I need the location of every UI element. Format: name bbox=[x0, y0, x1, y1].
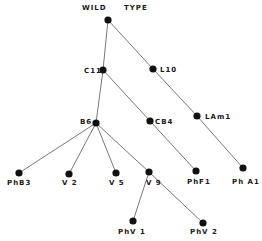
label-wild: WILD bbox=[82, 4, 107, 12]
node-v2 bbox=[65, 170, 72, 177]
edge-b6-phb3 bbox=[19, 123, 96, 173]
label-v5: V 5 bbox=[109, 179, 125, 187]
lineage-tree-diagram: WILD TYPE C11 L10 B6 CB4 LAm1 PhB3 V 2 V… bbox=[0, 0, 262, 241]
edge-lam1-pha1 bbox=[197, 116, 243, 168]
label-cb4: CB4 bbox=[155, 118, 173, 126]
edge-l10-lam1 bbox=[153, 69, 197, 116]
edge-b6-v2 bbox=[69, 123, 96, 174]
node-phb3 bbox=[15, 169, 22, 176]
label-pha1: Ph A1 bbox=[232, 178, 260, 186]
edge-wt-l10 bbox=[108, 20, 153, 69]
node-l10 bbox=[149, 65, 156, 72]
node-b6 bbox=[92, 119, 99, 126]
label-phf1: PhF1 bbox=[187, 178, 211, 186]
label-phb3: PhB3 bbox=[7, 179, 31, 187]
label-l10: L10 bbox=[160, 66, 177, 74]
edge-b6-v5 bbox=[96, 123, 116, 173]
edge-cb4-phf1 bbox=[150, 121, 196, 171]
tree-nodes bbox=[15, 16, 246, 226]
node-phv1 bbox=[129, 217, 136, 224]
label-lam1: LAm1 bbox=[205, 113, 231, 121]
tree-labels: WILD TYPE C11 L10 B6 CB4 LAm1 PhB3 V 2 V… bbox=[7, 4, 260, 236]
node-v5 bbox=[112, 169, 119, 176]
node-cb4 bbox=[146, 117, 153, 124]
edge-wt-c11 bbox=[103, 20, 108, 70]
edge-c11-cb4 bbox=[103, 70, 150, 121]
node-v9 bbox=[145, 168, 152, 175]
node-phf1 bbox=[192, 167, 199, 174]
label-v2: V 2 bbox=[62, 179, 78, 187]
node-pha1 bbox=[239, 164, 246, 171]
label-b6: B6 bbox=[80, 118, 92, 126]
node-lam1 bbox=[193, 112, 200, 119]
label-type: TYPE bbox=[124, 4, 148, 12]
tree-edges bbox=[19, 20, 243, 223]
node-wild-type bbox=[104, 16, 111, 23]
label-c11: C11 bbox=[84, 67, 102, 75]
edge-b6-v9 bbox=[96, 123, 149, 172]
label-phv1: PhV 1 bbox=[118, 228, 146, 236]
edge-c11-b6 bbox=[96, 70, 103, 123]
label-phv2: PhV 2 bbox=[190, 228, 218, 236]
label-v9: V 9 bbox=[146, 179, 162, 187]
node-phv2 bbox=[199, 219, 206, 226]
